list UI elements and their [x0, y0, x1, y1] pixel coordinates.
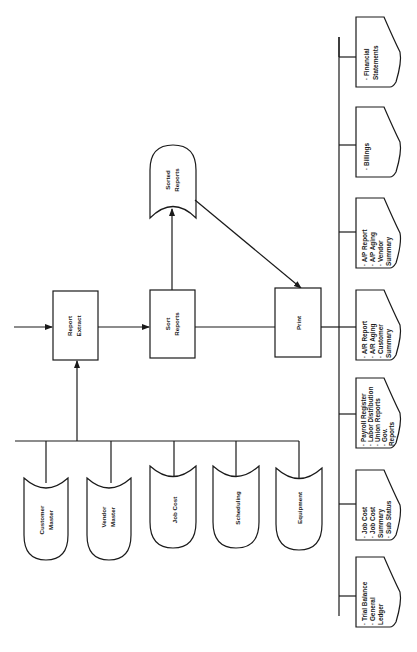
- svg-text:· Job Cost: · Job Cost: [361, 506, 368, 538]
- svg-text:Reports: Reports: [173, 312, 180, 336]
- report-extract-line2: Extract: [75, 316, 82, 337]
- report-doc-accounts-receivable: · A/R Report · A/R Aging · Customer Summ…: [356, 290, 401, 360]
- report-doc-billings: · Billings: [356, 107, 401, 177]
- svg-text:· Financial: · Financial: [363, 48, 370, 80]
- report-extract-box: Report Extract: [53, 291, 98, 360]
- print-box: Print: [275, 288, 321, 357]
- svg-text:· A/P Aging: · A/P Aging: [369, 232, 377, 266]
- svg-text:Print: Print: [295, 316, 302, 330]
- storage-to-print-arrow: [195, 200, 301, 288]
- svg-text:· Gov.: · Gov.: [381, 428, 388, 446]
- svg-text:Statements: Statements: [372, 45, 379, 80]
- svg-text:· Sub Status: · Sub Status: [385, 500, 392, 538]
- report-doc-job-cost: · Job Cost · Job Cost Summary · Sub Stat…: [356, 470, 401, 540]
- svg-text:Scheduling: Scheduling: [234, 491, 241, 525]
- data-file-vendor-master: Vendor Master: [87, 478, 131, 560]
- svg-text:Summary: Summary: [377, 508, 385, 538]
- svg-text:Reports: Reports: [388, 421, 396, 446]
- svg-text:Sorted: Sorted: [164, 170, 171, 190]
- svg-text:Master: Master: [47, 509, 54, 530]
- svg-text:Master: Master: [109, 506, 116, 527]
- svg-text:· Vendor: · Vendor: [377, 240, 384, 266]
- svg-text:· Trial Balance: · Trial Balance: [361, 581, 368, 625]
- svg-text:· General: · General: [369, 597, 376, 625]
- report-extract-line1: Report: [66, 316, 73, 336]
- svg-text:Reports: Reports: [173, 168, 180, 192]
- svg-text:Ledger: Ledger: [377, 603, 385, 625]
- svg-text:Summary: Summary: [385, 236, 393, 266]
- svg-text:Sort: Sort: [164, 318, 171, 330]
- sort-reports-box: Sort Reports: [150, 290, 195, 358]
- data-file-job-cost: Job Cost: [150, 466, 196, 548]
- report-doc-trial-balance: · Trial Balance · General Ledger: [356, 557, 401, 627]
- sorted-reports-storage: Sorted Reports: [150, 145, 196, 218]
- svg-text:Customer: Customer: [38, 505, 45, 534]
- report-doc-accounts-payable: · A/P Report · A/P Aging · Vendor Summar…: [356, 198, 401, 268]
- data-file-scheduling: Scheduling: [213, 466, 259, 548]
- svg-text:Vendor: Vendor: [100, 506, 107, 528]
- report-doc-payroll: · Payroll Register · Labor Distribution …: [356, 378, 401, 448]
- svg-text:· Job Cost: · Job Cost: [369, 506, 376, 538]
- data-file-equipment: Equipment: [276, 468, 322, 550]
- svg-text:· Labor Distribution: · Labor Distribution: [367, 387, 374, 446]
- svg-text:· Billings: · Billings: [363, 143, 371, 170]
- svg-text:· A/R Aging: · A/R Aging: [369, 324, 377, 358]
- svg-text:· A/R Report: · A/R Report: [361, 320, 369, 358]
- svg-text:Summary: Summary: [385, 328, 393, 358]
- svg-text:Equipment: Equipment: [296, 492, 303, 524]
- svg-text:Job Cost: Job Cost: [171, 497, 178, 523]
- report-flow-diagram: Report Extract Customer Master Vendor Ma…: [0, 0, 417, 652]
- data-file-customer-master: Customer Master: [24, 478, 68, 560]
- report-doc-financial-statements: · Financial Statements: [356, 17, 401, 87]
- svg-text:· A/P Report: · A/P Report: [361, 229, 369, 266]
- svg-text:· Customer: · Customer: [377, 324, 384, 358]
